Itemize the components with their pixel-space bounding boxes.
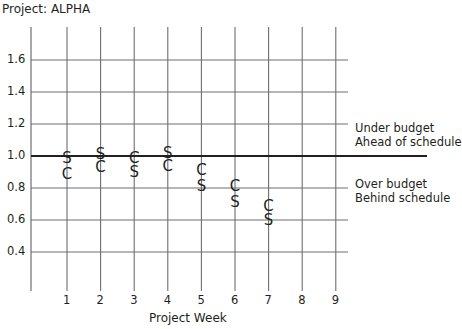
x-tick-label: 7: [265, 293, 272, 307]
y-tick-label: 0.8: [7, 180, 25, 194]
annotation-below-line1: Over budget: [355, 177, 450, 191]
marker-c: C: [230, 177, 240, 195]
x-tick-label: 3: [130, 293, 137, 307]
marker-c: C: [196, 161, 206, 179]
annotation-below: Over budget Behind schedule: [355, 177, 450, 205]
marker-c: C: [129, 149, 139, 167]
y-tick-label: 1.2: [7, 116, 25, 130]
y-tick-label: 0.4: [7, 244, 25, 258]
x-tick-label: 9: [332, 293, 339, 307]
marker-c: C: [62, 165, 72, 183]
y-tick-label: 0.6: [7, 212, 25, 226]
y-tick-label: 1.6: [7, 52, 25, 66]
marker-s: S: [197, 177, 207, 195]
x-tick-label: 4: [164, 293, 171, 307]
x-tick-label: 2: [97, 293, 104, 307]
marker-s: S: [230, 193, 240, 211]
x-axis-title: Project Week: [149, 311, 227, 325]
x-tick-label: 8: [298, 293, 305, 307]
x-tick-label: 6: [231, 293, 238, 307]
y-tick-label: 1.4: [7, 84, 25, 98]
annotation-above: Under budget Ahead of schedule: [355, 121, 462, 149]
annotation-above-line2: Ahead of schedule: [355, 135, 462, 149]
annotation-below-line2: Behind schedule: [355, 191, 450, 205]
marker-c: C: [95, 158, 105, 176]
y-tick-label: 1.0: [7, 148, 25, 162]
annotation-above-line1: Under budget: [355, 121, 462, 135]
marker-c: C: [263, 197, 273, 215]
marker-c: C: [163, 157, 173, 175]
x-tick-label: 5: [197, 293, 204, 307]
x-tick-label: 1: [63, 293, 70, 307]
